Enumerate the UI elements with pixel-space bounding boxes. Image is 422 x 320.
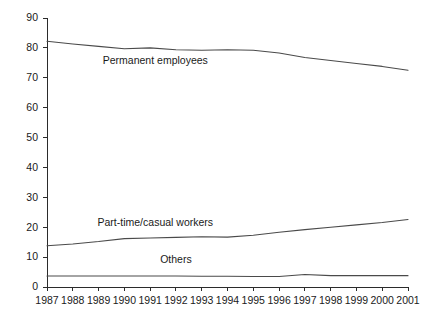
series-label: Part-time/casual workers <box>98 216 214 228</box>
x-tick-label: 1998 <box>319 294 343 306</box>
x-tick-label: 1990 <box>113 294 137 306</box>
y-tick-label: 20 <box>26 221 38 233</box>
x-tick-label: 1996 <box>267 294 291 306</box>
series-label: Others <box>160 253 192 265</box>
y-axis-tick-marks <box>43 18 47 287</box>
series-line <box>47 41 408 70</box>
y-tick-label: 10 <box>26 250 38 262</box>
x-tick-label: 1997 <box>293 294 317 306</box>
x-tick-label: 1987 <box>35 294 59 306</box>
y-tick-label: 0 <box>32 280 38 292</box>
series-lines <box>47 41 408 276</box>
series-label: Permanent employees <box>103 54 208 66</box>
x-tick-label: 1999 <box>345 294 369 306</box>
x-tick-label: 2000 <box>371 294 395 306</box>
y-tick-label: 60 <box>26 101 38 113</box>
x-tick-label: 1989 <box>87 294 111 306</box>
x-axis-tick-labels: 1987198819891990199119921993199419951996… <box>35 294 420 306</box>
y-tick-label: 30 <box>26 191 38 203</box>
y-tick-label: 50 <box>26 131 38 143</box>
x-tick-label: 1995 <box>242 294 266 306</box>
line-chart: 0102030405060708090 19871988198919901991… <box>0 0 422 320</box>
y-tick-label: 90 <box>26 11 38 23</box>
chart-container: 0102030405060708090 19871988198919901991… <box>0 0 422 320</box>
series-line <box>47 274 408 276</box>
series-inline-labels: Permanent employeesPart-time/casual work… <box>98 54 214 265</box>
x-tick-label: 1994 <box>216 294 240 306</box>
x-axis-tick-marks <box>47 287 408 291</box>
x-tick-label: 2001 <box>396 294 420 306</box>
x-tick-label: 1991 <box>138 294 162 306</box>
y-axis-tick-labels: 0102030405060708090 <box>26 11 38 292</box>
x-tick-label: 1988 <box>61 294 85 306</box>
x-tick-label: 1993 <box>190 294 214 306</box>
x-tick-label: 1992 <box>164 294 188 306</box>
y-tick-label: 40 <box>26 161 38 173</box>
y-tick-label: 70 <box>26 71 38 83</box>
y-tick-label: 80 <box>26 41 38 53</box>
